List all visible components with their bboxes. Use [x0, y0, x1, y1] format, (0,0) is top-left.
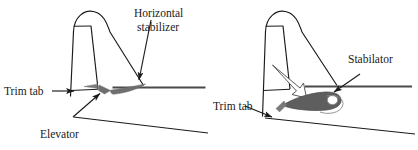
right-trim-tab-surface — [276, 101, 287, 112]
stabilator-motion-arrow-icon — [273, 65, 307, 98]
label-elevator: Elevator — [40, 128, 79, 140]
left-rudder-hinge-line — [91, 26, 98, 89]
left-fin-root-line — [71, 89, 98, 90]
label-horizontal-stabilizer-line2: stabilizer — [137, 21, 179, 33]
left-elevator-surface — [110, 84, 145, 94]
label-left-trim-tab: Trim tab — [4, 85, 44, 97]
left-fuselage-line — [74, 117, 209, 133]
label-stabilator: Stabilator — [348, 53, 393, 65]
stabilator-pivot-icon — [327, 95, 337, 104]
left-tail-assembly: Horizontal stabilizer Trim tab Elevator — [4, 7, 208, 140]
right-stabilator-leader — [334, 74, 360, 92]
figure-canvas: Horizontal stabilizer Trim tab Elevator — [0, 0, 418, 150]
label-right-trim-tab: Trim tab — [213, 100, 253, 112]
left-vertical-stabilizer — [71, 11, 144, 96]
aircraft-tail-diagram: Horizontal stabilizer Trim tab Elevator — [0, 0, 418, 150]
right-fuselage-line — [265, 118, 415, 134]
left-elevator-leader — [73, 94, 100, 118]
left-elevator-hinge-wedge — [99, 85, 111, 94]
right-tail-assembly: Stabilator Trim tab — [213, 11, 415, 134]
right-fin-root-line — [263, 89, 290, 90]
label-horizontal-stabilizer-line1: Horizontal — [134, 7, 183, 19]
left-trim-tab-surface — [84, 84, 98, 88]
